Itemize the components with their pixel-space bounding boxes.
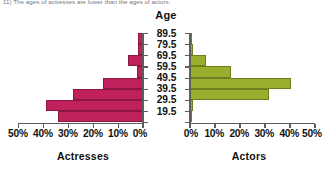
bar-row: [190, 33, 332, 44]
bar-actors-59-5: [190, 66, 231, 77]
bar-row: [0, 100, 143, 111]
age-label: 39.5: [143, 83, 190, 94]
xtick-left-20: [93, 124, 94, 128]
xtick-right-40: [289, 124, 290, 128]
axis-horizontal-right: [189, 123, 315, 124]
panel-caption-actors: Actors: [166, 150, 332, 162]
xtick-left-10: [118, 124, 119, 128]
xaxis-label: 0%: [184, 128, 198, 139]
age-axis-labels: 89.5 79.5 69.5 59.5 49.5 39.5 29.5 19.5: [143, 33, 190, 123]
age-label: 29.5: [143, 94, 190, 105]
xtick-right-30: [264, 124, 265, 128]
xaxis-label: 50%: [302, 128, 322, 139]
age-label: 49.5: [143, 72, 190, 83]
panel-actresses: 50% 40% 30% 20% 10% 0% Actresses: [0, 0, 166, 169]
bar-row: [0, 111, 143, 122]
axis-horizontal-left: [18, 123, 144, 124]
bar-actresses-39-5: [73, 89, 143, 100]
bar-actors-69-5: [190, 55, 206, 66]
bars-actors: [166, 33, 332, 122]
bar-actors-49-5: [190, 78, 291, 89]
xaxis-label: 10%: [108, 128, 128, 139]
bars-actresses: [0, 33, 166, 122]
xaxis-label: 40%: [279, 128, 299, 139]
age-label: 59.5: [143, 61, 190, 72]
xaxis-labels-actresses: 50% 40% 30% 20% 10% 0%: [0, 128, 166, 142]
bar-row: [0, 66, 143, 77]
bar-actresses-19-5: [58, 111, 143, 122]
xaxis-label: 0%: [133, 128, 147, 139]
age-label: 89.5: [143, 28, 190, 39]
bar-actors-39-5: [190, 89, 269, 100]
xtick-right-20: [239, 124, 240, 128]
bar-row: [0, 44, 143, 55]
xaxis-label: 50%: [8, 128, 28, 139]
bar-row: [0, 89, 143, 100]
age-label: 69.5: [143, 50, 190, 61]
bar-row: [0, 78, 143, 89]
age-label: 19.5: [143, 106, 190, 117]
bar-actresses-69-5: [128, 55, 143, 66]
panel-caption-actresses: Actresses: [0, 150, 166, 162]
xtick-right-0: [189, 124, 190, 128]
bar-row: [190, 44, 332, 55]
xaxis-label: 40%: [33, 128, 53, 139]
xtick-left-40: [43, 124, 44, 128]
xaxis-label: 20%: [229, 128, 249, 139]
xaxis-label: 20%: [83, 128, 103, 139]
xaxis-label: 10%: [204, 128, 224, 139]
bar-row: [0, 55, 143, 66]
pyramid-chart-figure: 11) The ages of actresses are lower than…: [0, 0, 332, 169]
bar-row: [190, 78, 332, 89]
xtick-right-10: [214, 124, 215, 128]
xtick-left-0: [142, 124, 143, 128]
bar-row: [190, 100, 332, 111]
bar-row: [190, 66, 332, 77]
xtick-left-50: [18, 124, 19, 128]
xtick-right-50: [314, 124, 315, 128]
bar-actresses-49-5: [103, 78, 143, 89]
xtick-left-30: [68, 124, 69, 128]
xaxis-label: 30%: [58, 128, 78, 139]
xaxis-labels-actors: 0% 10% 20% 30% 40% 50%: [166, 128, 332, 142]
bar-row: [0, 33, 143, 44]
bar-row: [190, 55, 332, 66]
age-label: 79.5: [143, 39, 190, 50]
bar-row: [190, 111, 332, 122]
xaxis-label: 30%: [254, 128, 274, 139]
bar-actresses-29-5: [46, 100, 144, 111]
bar-row: [190, 89, 332, 100]
panel-actors: 0% 10% 20% 30% 40% 50% Actors: [166, 0, 332, 169]
